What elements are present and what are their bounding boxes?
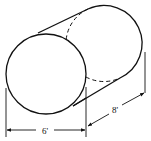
length-dimension-upper xyxy=(122,93,144,105)
diameter-label: 6' xyxy=(42,126,49,136)
cylinder-diagram: 6' 8' xyxy=(0,0,151,141)
back-circle-visible-arc xyxy=(88,5,142,78)
length-dimension-lower xyxy=(88,114,109,126)
front-circle xyxy=(6,34,86,114)
top-side-line xyxy=(38,9,88,33)
length-label: 8' xyxy=(112,105,119,115)
